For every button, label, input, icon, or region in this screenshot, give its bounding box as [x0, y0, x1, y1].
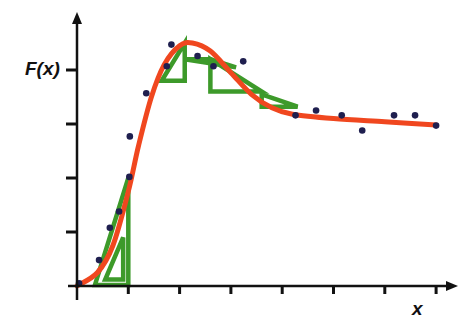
- data-point: [194, 53, 201, 60]
- data-point: [240, 58, 247, 65]
- data-point: [168, 41, 175, 48]
- x-axis-label: x: [412, 298, 423, 320]
- chart-canvas: [0, 0, 472, 333]
- data-point: [127, 133, 134, 140]
- data-point: [338, 112, 345, 119]
- data-point: [412, 112, 419, 119]
- x-axis-arrow-icon: [446, 281, 458, 291]
- data-point: [292, 112, 299, 119]
- data-point: [359, 127, 366, 134]
- data-point: [107, 224, 114, 231]
- y-axis-label: F(x): [25, 58, 60, 80]
- y-ticks: [66, 70, 77, 232]
- data-point: [163, 63, 170, 70]
- data-point: [391, 112, 398, 119]
- fitted-curve: [77, 43, 436, 287]
- data-point: [96, 257, 103, 264]
- data-point: [143, 90, 150, 97]
- data-point: [126, 174, 133, 181]
- data-point: [210, 63, 217, 70]
- data-point: [433, 122, 440, 129]
- y-axis-arrow-icon: [72, 12, 82, 24]
- slope-triangles: [95, 43, 298, 285]
- data-point: [313, 107, 320, 114]
- data-point: [116, 208, 123, 215]
